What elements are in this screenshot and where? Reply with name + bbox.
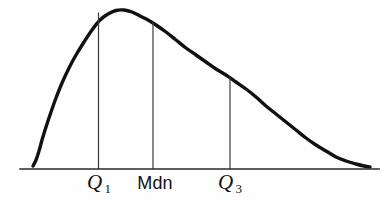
- axis-label-q1-subscript: 1: [102, 181, 111, 196]
- axis-label-q3-text: Q: [218, 170, 233, 194]
- frequency-distribution-figure: Q1 Mdn Q3: [0, 0, 390, 201]
- chart-plot-area: [20, 10, 379, 169]
- axis-label-mdn: Mdn: [137, 174, 173, 192]
- distribution-chart-canvas: [0, 0, 390, 201]
- axis-label-q3-subscript: 3: [233, 181, 242, 196]
- axis-label-mdn-text: Mdn: [137, 173, 173, 193]
- axis-label-q3: Q3: [218, 172, 242, 195]
- axis-label-q1: Q1: [87, 172, 111, 195]
- distribution-curve: [33, 10, 370, 167]
- axis-label-q1-text: Q: [87, 170, 102, 194]
